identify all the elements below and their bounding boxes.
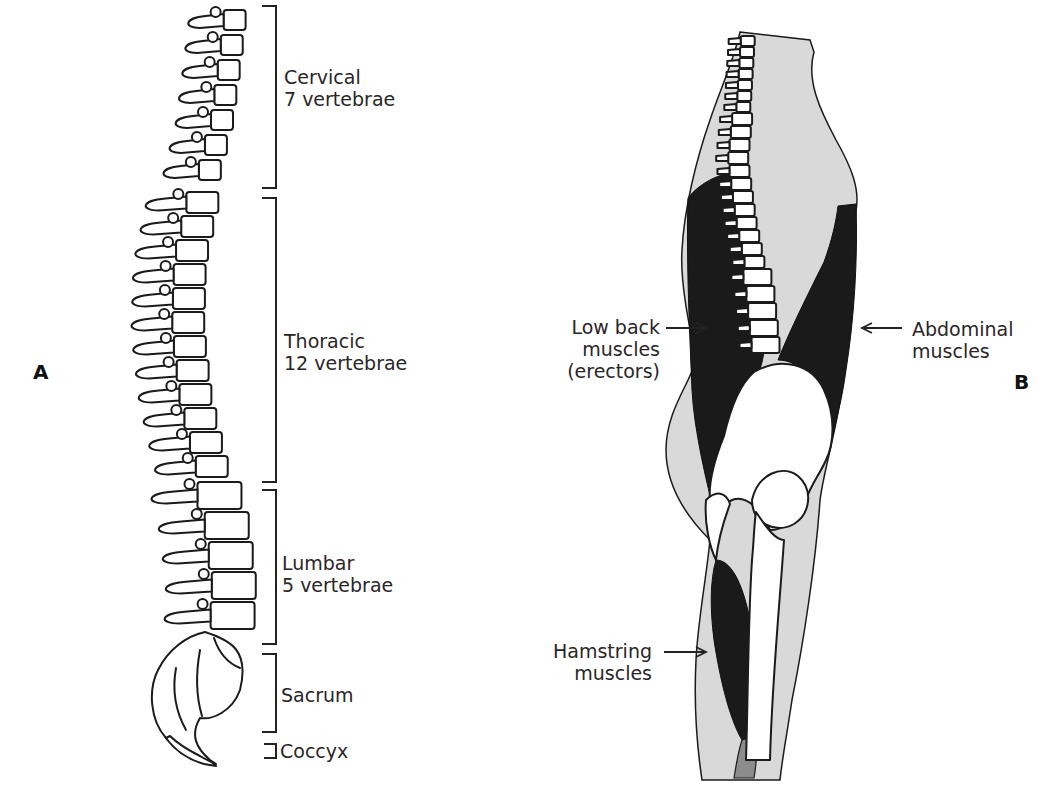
vertebra-body xyxy=(196,456,228,477)
vertebra-body xyxy=(735,204,755,216)
vertebra-body xyxy=(177,360,209,381)
vertebra-body xyxy=(209,542,253,569)
spinous-process xyxy=(159,520,205,534)
label-coccyx: Coccyx xyxy=(280,740,348,762)
facet-joint xyxy=(183,453,193,463)
facet-joint xyxy=(201,82,211,92)
spinous-process xyxy=(721,194,733,200)
spinous-process xyxy=(730,246,742,252)
facet-joint xyxy=(199,569,209,579)
bracket-sacrum xyxy=(262,654,276,732)
vertebra-body xyxy=(744,256,764,268)
vertebra-body xyxy=(752,337,780,353)
vertebra-body xyxy=(737,217,757,229)
vertebra-body xyxy=(173,288,205,309)
arrow-hamstring xyxy=(664,647,706,657)
spinous-process xyxy=(731,274,743,280)
label-low-back-muscles: Low back muscles (erectors) xyxy=(552,316,660,382)
spinous-process xyxy=(166,580,212,594)
spinous-process xyxy=(727,233,739,239)
region-name: Thoracic xyxy=(284,330,407,352)
vertebra-body xyxy=(218,60,240,80)
vertebra-body xyxy=(184,408,216,429)
vertebra-body xyxy=(199,160,221,180)
vertebra-body xyxy=(186,192,218,213)
facet-joint xyxy=(166,381,176,391)
facet-joint xyxy=(159,309,169,319)
label-line: muscles xyxy=(912,340,1014,362)
vertebra-body xyxy=(737,91,751,101)
vertebra-body xyxy=(746,286,774,302)
vertebra-body xyxy=(197,482,241,509)
spinous-process xyxy=(728,49,740,55)
facet-joint xyxy=(163,237,173,247)
spinous-process xyxy=(725,93,737,99)
spinous-process xyxy=(725,220,737,226)
facet-joint xyxy=(186,157,196,167)
facet-joint xyxy=(171,405,181,415)
label-line: muscles xyxy=(552,338,660,360)
vertebra-body xyxy=(174,336,206,357)
spinous-process xyxy=(165,610,211,624)
spinous-process xyxy=(729,38,741,44)
spinous-process xyxy=(719,181,731,187)
facet-joint xyxy=(211,7,221,17)
bracket-coccyx xyxy=(264,744,276,758)
spinous-process xyxy=(727,71,739,77)
spinous-process xyxy=(720,116,732,122)
spinous-process xyxy=(717,168,729,174)
vertebra-body xyxy=(736,102,750,112)
facet-joint xyxy=(164,357,174,367)
vertebra-body xyxy=(176,240,208,261)
vertebra-body xyxy=(181,216,213,237)
label-thoracic: Thoracic 12 vertebrae xyxy=(284,330,407,374)
bracket-thoracic xyxy=(262,198,276,482)
spinous-process xyxy=(716,155,728,161)
vertebra-body xyxy=(733,191,753,203)
region-count: 7 vertebrae xyxy=(284,88,395,110)
facet-joint xyxy=(198,599,208,609)
label-line: (erectors) xyxy=(552,360,660,382)
vertebra-body xyxy=(211,602,255,629)
label-line: Low back xyxy=(552,316,660,338)
label-lumbar: Lumbar 5 vertebrae xyxy=(282,552,393,596)
facet-joint xyxy=(161,333,171,343)
spinous-process xyxy=(718,142,730,148)
facet-joint xyxy=(192,132,202,142)
vertebra-body xyxy=(739,58,753,68)
label-line: Hamstring xyxy=(540,640,652,662)
label-hamstring-muscles: Hamstring muscles xyxy=(540,640,652,684)
vertebra-body xyxy=(221,35,243,55)
facet-joint xyxy=(192,509,202,519)
spinous-process xyxy=(738,325,750,331)
vertebra-body xyxy=(742,243,762,255)
arrow-low-back xyxy=(666,323,706,333)
facet-joint xyxy=(160,285,170,295)
spinous-process xyxy=(740,342,752,348)
spinous-process xyxy=(734,291,746,297)
vertebra-body xyxy=(174,264,206,285)
vertebra-body xyxy=(731,126,751,138)
spinous-process xyxy=(152,490,198,504)
facet-joint xyxy=(184,479,194,489)
vertebral-column xyxy=(132,7,256,629)
region-count: 5 vertebrae xyxy=(282,574,393,596)
vertebra-body xyxy=(738,80,752,90)
panel-a-spine: A Cervical 7 vertebrae Thoracic 12 verte… xyxy=(0,0,520,796)
facet-joint xyxy=(177,429,187,439)
label-line: muscles xyxy=(540,662,652,684)
facet-joint xyxy=(173,189,183,199)
facet-joint xyxy=(161,261,171,271)
facet-joint xyxy=(208,32,218,42)
label-cervical: Cervical 7 vertebrae xyxy=(284,66,395,110)
vertebra-body xyxy=(212,572,256,599)
vertebra-body xyxy=(211,110,233,130)
vertebra-body xyxy=(224,10,246,30)
spine-illustration xyxy=(0,0,520,796)
vertebra-body xyxy=(205,135,227,155)
bracket-lumbar xyxy=(262,490,276,644)
spinous-process xyxy=(723,207,735,213)
vertebra-body xyxy=(190,432,222,453)
bracket-cervical xyxy=(262,6,276,188)
vertebra-body xyxy=(729,165,749,177)
